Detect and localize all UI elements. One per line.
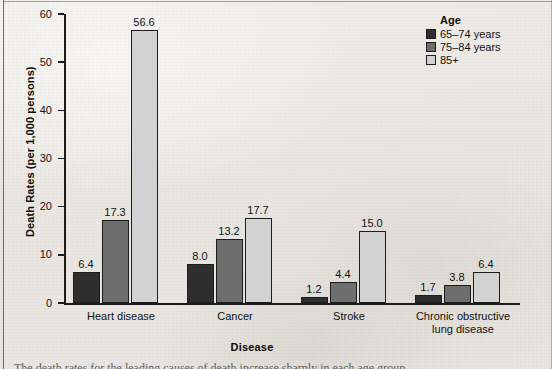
legend-title: Age bbox=[440, 14, 501, 26]
bar[interactable] bbox=[330, 282, 357, 303]
bar[interactable] bbox=[473, 272, 500, 303]
bar[interactable] bbox=[216, 239, 243, 303]
bar[interactable] bbox=[444, 285, 471, 303]
x-axis-category-label: Chronic obstructive lung disease bbox=[392, 310, 534, 336]
bar-value-label: 56.6 bbox=[123, 17, 166, 28]
legend-item-label: 75–84 years bbox=[440, 42, 501, 53]
legend-color-swatch bbox=[426, 29, 436, 39]
x-axis-line bbox=[64, 303, 520, 305]
y-axis-tick-label: 20 bbox=[18, 201, 52, 212]
legend-item-label: 65–74 years bbox=[440, 29, 501, 40]
legend-item-label: 85+ bbox=[440, 55, 459, 66]
y-axis-tick-label: 30 bbox=[18, 153, 52, 164]
legend-item[interactable]: 85+ bbox=[426, 54, 501, 66]
bar[interactable] bbox=[131, 30, 158, 303]
y-axis-tick bbox=[58, 61, 64, 63]
y-axis-tick bbox=[58, 110, 64, 112]
bar[interactable] bbox=[301, 297, 328, 303]
y-axis-tick bbox=[58, 206, 64, 208]
x-axis-title: Disease bbox=[24, 341, 480, 353]
grouped-bar-chart: Death Rates (per 1,000 persons) 60504030… bbox=[0, 0, 552, 369]
y-axis-tick bbox=[58, 302, 64, 304]
y-axis-tick-label: 50 bbox=[18, 57, 52, 68]
figure-caption: The death rates for the leading causes o… bbox=[14, 361, 534, 369]
bar[interactable] bbox=[359, 231, 386, 303]
legend-color-swatch bbox=[426, 55, 436, 65]
y-axis-tick-label: 10 bbox=[18, 249, 52, 260]
bar-value-label: 15.0 bbox=[351, 218, 394, 229]
bar[interactable] bbox=[245, 218, 272, 303]
legend-color-swatch bbox=[426, 42, 436, 52]
bar-value-label: 17.7 bbox=[237, 205, 280, 216]
bar[interactable] bbox=[187, 264, 214, 303]
y-axis-tick-label: 0 bbox=[18, 298, 52, 309]
y-axis-tick-label: 40 bbox=[18, 105, 52, 116]
bar[interactable] bbox=[73, 272, 100, 303]
legend-item[interactable]: 75–84 years bbox=[426, 41, 501, 53]
legend-item[interactable]: 65–74 years bbox=[426, 28, 501, 40]
bar[interactable] bbox=[102, 220, 129, 303]
y-axis-tick bbox=[58, 254, 64, 256]
legend: Age 65–74 years75–84 years85+ bbox=[426, 14, 501, 67]
y-axis-tick-label: 60 bbox=[18, 9, 52, 20]
bar-value-label: 6.4 bbox=[465, 259, 508, 270]
bar[interactable] bbox=[415, 295, 442, 303]
y-axis-tick bbox=[58, 158, 64, 160]
y-axis-tick bbox=[58, 13, 64, 15]
